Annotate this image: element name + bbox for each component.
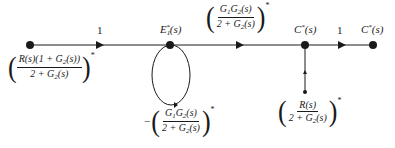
node-input xyxy=(26,41,34,49)
node-c1 xyxy=(301,41,309,49)
gain-input-to-e1: 1 xyxy=(97,25,103,36)
arrow-icon xyxy=(96,41,104,49)
input-gain-label: ( R(s)(1 + G2(s)) 2 + G2(s) ) * xyxy=(8,54,95,81)
gain-self-loop-e1: − ( G1G2(s) 2 + G2(s) ) * xyxy=(144,108,215,135)
node-label-c2: C*(s) xyxy=(361,24,383,35)
arrow-icon xyxy=(236,41,244,49)
node-c2 xyxy=(369,41,377,49)
node-label-e1: E1*(s) xyxy=(160,24,181,37)
node-r xyxy=(303,90,307,94)
gain-e1-to-c1: ( G1G2(s) 2 + G2(s) ) * xyxy=(206,4,269,31)
gain-r-to-c1: ( R(s) 2 + G2(s) ) * xyxy=(278,99,341,125)
gain-c1-to-c2: 1 xyxy=(337,25,343,36)
arrow-icon xyxy=(338,41,346,49)
arrow-icon xyxy=(303,70,307,74)
node-e1 xyxy=(166,41,174,49)
node-label-c1: C*(s) xyxy=(294,24,316,35)
self-loop-e1 xyxy=(152,45,190,105)
